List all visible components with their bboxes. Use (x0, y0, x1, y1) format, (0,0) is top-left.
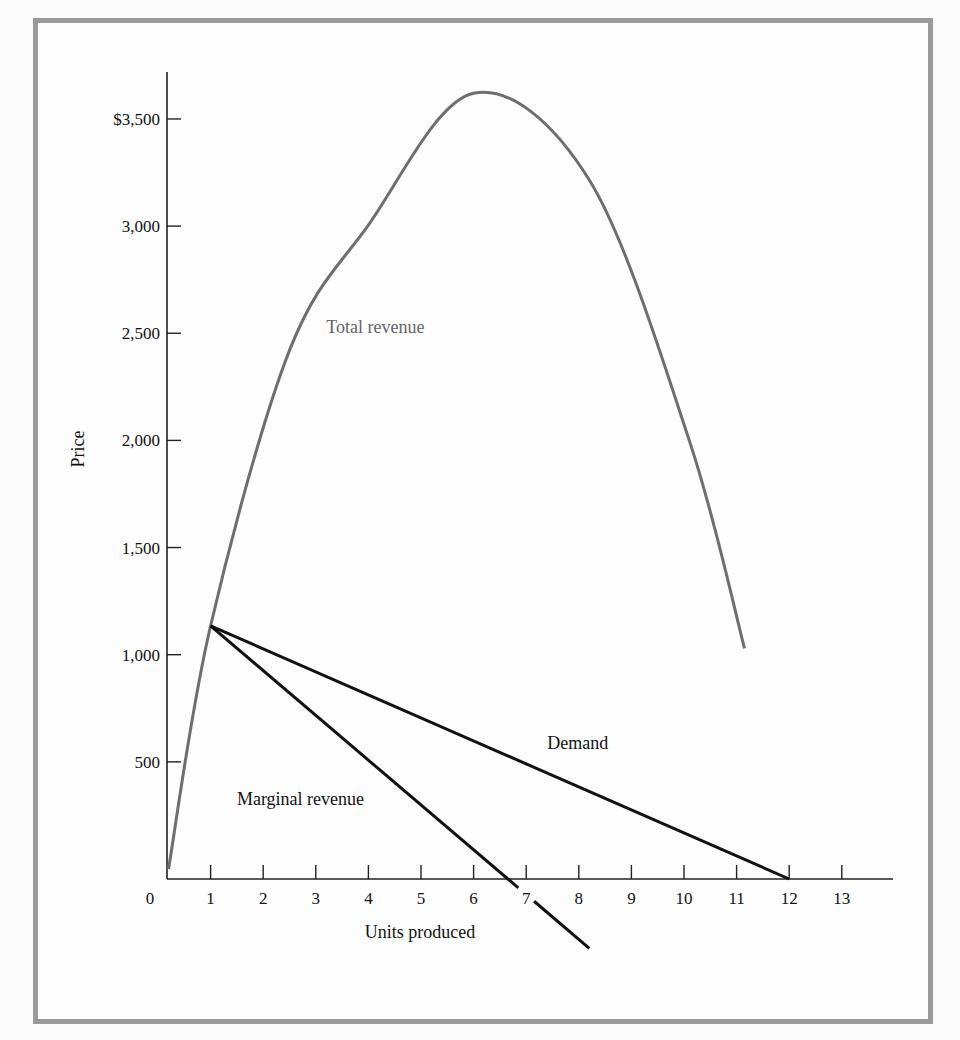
series-marks (169, 92, 790, 948)
y-tick-label: 1,000 (122, 646, 160, 665)
y-tick-label: 2,500 (122, 324, 160, 343)
y-tick-label: 2,000 (122, 431, 160, 450)
y-axis-title: Price (68, 430, 88, 467)
x-tick-label: 11 (728, 889, 744, 908)
chart: 0123456789101112135001,0001,5002,0002,50… (0, 0, 960, 1040)
x-tick-label: 13 (833, 889, 850, 908)
y-tick-label: 3,000 (122, 217, 160, 236)
total-revenue-curve (169, 92, 745, 869)
x-tick-label: 12 (781, 889, 798, 908)
x-axis-title: Units produced (365, 922, 475, 942)
y-tick-label: 1,500 (122, 539, 160, 558)
total-revenue-label: Total revenue (326, 317, 424, 337)
x-tick-label: 6 (469, 889, 478, 908)
marginal-revenue-label: Marginal revenue (237, 789, 364, 809)
axes: 0123456789101112135001,0001,5002,0002,50… (113, 72, 893, 908)
x-tick-label: 9 (627, 889, 636, 908)
y-tick-label: 500 (135, 753, 161, 772)
x-tick-label: 0 (146, 889, 155, 908)
x-tick-label: 2 (259, 889, 268, 908)
x-tick-label: 10 (676, 889, 693, 908)
demand-label: Demand (547, 733, 608, 753)
x-tick-label: 3 (312, 889, 321, 908)
demand-line (211, 626, 790, 879)
x-tick-label: 1 (206, 889, 215, 908)
x-tick-label: 7 (522, 889, 531, 908)
labels: Units producedPriceTotal revenueDemandMa… (68, 317, 608, 942)
y-tick-label: $3,500 (113, 110, 160, 129)
x-tick-label: 4 (364, 889, 373, 908)
marginal-revenue-line-segment (534, 901, 589, 948)
marginal-revenue-line (211, 626, 519, 888)
x-tick-label: 8 (575, 889, 584, 908)
x-tick-label: 5 (417, 889, 426, 908)
